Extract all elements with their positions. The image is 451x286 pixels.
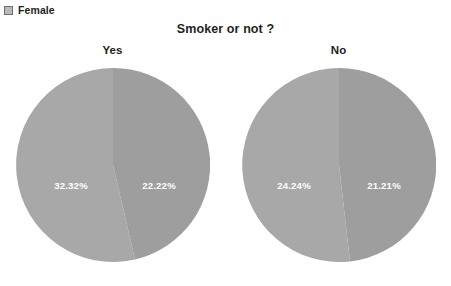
pie-slice-label-no-0: 24.24% (277, 180, 311, 191)
legend-square-icon (4, 6, 13, 15)
pie-chart-yes: 32.32% 22.22% (16, 68, 210, 262)
pie-slice-label-yes-0: 32.32% (54, 180, 88, 191)
pie-panel-yes: Yes 32.32% 22.22% (0, 40, 225, 286)
pie-slice-label-yes-1: 22.22% (142, 180, 176, 191)
legend: Female (4, 2, 55, 18)
pie-slice-label-no-1: 21.21% (367, 180, 401, 191)
panel-label-no: No (226, 44, 451, 56)
chart-title: Smoker or not ? (0, 22, 451, 36)
pie-slice-no-1[interactable] (339, 68, 436, 261)
pie-panel-no: No 24.24% 21.21% (226, 40, 451, 286)
legend-label: Female (18, 5, 55, 16)
pie-chart-no: 24.24% 21.21% (242, 68, 436, 262)
pie-slice-no-0[interactable] (242, 68, 350, 262)
panel-label-yes: Yes (0, 44, 225, 56)
